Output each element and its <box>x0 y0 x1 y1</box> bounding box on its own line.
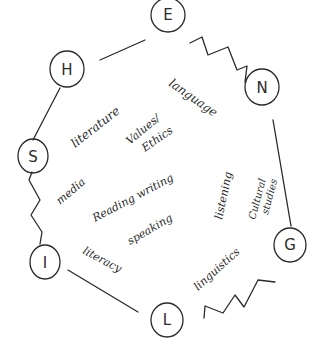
word-linguistics: linguistics <box>191 245 242 293</box>
node-n: N <box>245 69 279 105</box>
node-e-label: E <box>163 6 172 24</box>
node-l-label: L <box>163 311 172 329</box>
word-language: language <box>166 76 220 120</box>
edge-n-g <box>273 120 291 226</box>
node-l: L <box>151 303 183 337</box>
node-h-label: H <box>61 61 72 79</box>
word-media: media <box>54 175 88 207</box>
edge-l-i <box>68 270 138 312</box>
node-g-label: G <box>284 236 296 254</box>
english-concept-diagram: E N G L I S H language literature Values… <box>0 0 318 347</box>
word-speaking: speaking <box>125 211 175 247</box>
node-i-label: I <box>43 254 47 272</box>
edge-s-h <box>33 88 60 140</box>
edge-h-e <box>100 40 145 60</box>
node-h: H <box>50 51 84 87</box>
word-literature: literature <box>68 104 122 151</box>
edge-g-l-zigzag <box>204 280 275 318</box>
edge-i-s-zigzag <box>29 172 42 244</box>
node-g: G <box>274 228 306 262</box>
edge-e-n-zigzag <box>190 37 247 82</box>
node-s-label: S <box>28 148 38 166</box>
word-listening: listening <box>212 171 235 221</box>
node-s: S <box>18 139 48 173</box>
word-literacy: literacy <box>81 244 125 276</box>
node-e: E <box>151 0 185 32</box>
node-n-label: N <box>256 79 267 97</box>
node-i: I <box>30 245 60 279</box>
